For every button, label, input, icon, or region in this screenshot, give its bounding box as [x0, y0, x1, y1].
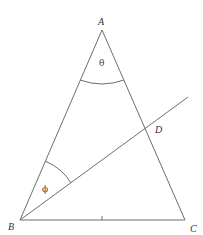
triangle-diagram: A B C D θ ϕ [0, 0, 203, 235]
side-ab [20, 30, 102, 220]
side-ac [102, 30, 185, 220]
vertex-label-c: C [190, 223, 197, 234]
angle-arc-phi [45, 161, 71, 183]
angle-arc-theta [80, 80, 124, 84]
line-bd-extended [20, 97, 188, 220]
vertex-label-b: B [8, 221, 14, 232]
angle-label-phi: ϕ [42, 184, 48, 194]
vertex-label-d: D [154, 124, 163, 135]
vertex-label-a: A [97, 16, 105, 27]
angle-label-theta: θ [99, 58, 104, 68]
